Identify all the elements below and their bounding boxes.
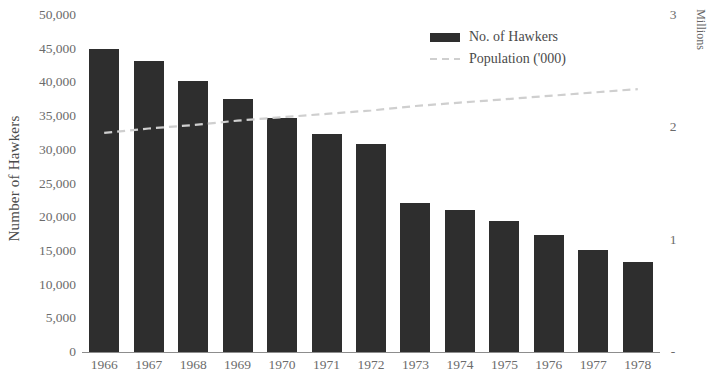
x-axis-tick-label: 1974: [438, 358, 482, 372]
y-axis-tick-label: 45,000: [2, 42, 76, 56]
x-axis-tick-label: 1969: [216, 358, 260, 372]
x-axis-tick-label: 1976: [527, 358, 571, 372]
y-axis-right-ticks: -123: [660, 0, 690, 383]
y-axis-title-right: Millions: [693, 0, 708, 85]
dashed-line-swatch-icon: [430, 54, 460, 64]
y2-axis-tick-label: -: [660, 345, 686, 359]
x-axis-tick-label: 1966: [82, 358, 126, 372]
y-axis-tick-label: 5,000: [2, 311, 76, 325]
x-axis-tick-label: 1972: [349, 358, 393, 372]
population-line: [104, 89, 638, 133]
x-axis-tick-label: 1978: [616, 358, 660, 372]
y-axis-tick-label: 0: [2, 345, 76, 359]
y-axis-tick-label: 30,000: [2, 143, 76, 157]
bar-swatch-icon: [430, 33, 460, 42]
y-axis-left-ticks: 05,00010,00015,00020,00025,00030,00035,0…: [0, 0, 76, 383]
x-axis-tick-label: 1973: [393, 358, 437, 372]
x-axis-tick-label: 1977: [571, 358, 615, 372]
y-axis-tick-label: 35,000: [2, 109, 76, 123]
x-axis-tick-label: 1971: [305, 358, 349, 372]
y2-axis-tick-label: 3: [660, 8, 686, 22]
x-axis-tick-label: 1968: [171, 358, 215, 372]
y2-axis-tick-label: 2: [660, 120, 686, 134]
y-axis-tick-label: 25,000: [2, 177, 76, 191]
x-axis-line: [82, 352, 660, 353]
x-axis-tick-label: 1967: [127, 358, 171, 372]
legend-item-population: Population ('000): [430, 48, 640, 70]
legend-item-hawkers: No. of Hawkers: [430, 26, 640, 48]
y-axis-tick-label: 50,000: [2, 8, 76, 22]
y-axis-tick-label: 10,000: [2, 278, 76, 292]
y-axis-tick-label: 40,000: [2, 75, 76, 89]
legend-item-label: Population ('000): [469, 51, 566, 67]
y-axis-tick-label: 15,000: [2, 244, 76, 258]
chart-legend: No. of Hawkers Population ('000): [430, 26, 640, 70]
x-axis-tick-label: 1970: [260, 358, 304, 372]
chart-container: Number of Hawkers Millions 05,00010,0001…: [0, 0, 726, 383]
y-axis-tick-label: 20,000: [2, 210, 76, 224]
y2-axis-tick-label: 1: [660, 233, 686, 247]
x-axis-tick-label: 1975: [482, 358, 526, 372]
legend-item-label: No. of Hawkers: [469, 29, 558, 45]
